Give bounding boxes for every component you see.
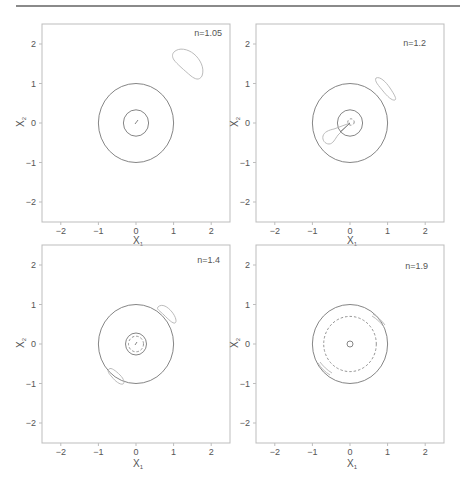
contour-center-mark (135, 342, 137, 345)
x-tick-label: −2 (270, 447, 280, 457)
x-ticks: −2 −1 0 1 2 (270, 443, 428, 457)
x-tick-label: 1 (385, 447, 390, 457)
contour-core-circle (347, 341, 353, 347)
x-tick-label: 2 (423, 226, 428, 236)
x-tick-label: −2 (270, 226, 280, 236)
y-tick-label: 2 (245, 260, 250, 270)
contour-figure: −2 −1 0 1 2 2 1 0 −1 −2 X1 X2 n=1.05 (0, 0, 462, 482)
x-tick-label: −1 (93, 447, 103, 457)
panel-n12: −2 −1 0 1 2 2 1 0 −1 −2 X1 X2 n=1.2 (229, 24, 444, 247)
x-tick-label: −1 (307, 226, 317, 236)
x-axis-label: X1 (133, 458, 144, 470)
y-tick-label: 1 (31, 300, 36, 310)
y-tick-label: −2 (240, 418, 250, 428)
y-ticks: 2 1 0 −1 −2 (240, 260, 256, 428)
x-ticks: −2 −1 0 1 2 (56, 222, 214, 236)
y-tick-label: −1 (26, 158, 36, 168)
panel-n19: −2 −1 0 1 2 2 1 0 −1 −2 X1 X2 n=1.9 (229, 245, 444, 470)
y-tick-label: 1 (245, 79, 250, 89)
y-ticks: 2 1 0 −1 −2 (26, 260, 42, 428)
y-tick-label: −2 (26, 418, 36, 428)
x-tick-label: 0 (133, 447, 138, 457)
y-axis-label: X2 (229, 116, 241, 127)
y-tick-label: 0 (31, 339, 36, 349)
n-annotation: n=1.9 (405, 261, 428, 271)
contour-dashed-ring (324, 316, 377, 371)
y-tick-label: −1 (240, 379, 250, 389)
x-ticks: −2 −1 0 1 2 (56, 443, 214, 457)
x-tick-label: 2 (209, 447, 214, 457)
y-tick-label: 1 (31, 79, 36, 89)
x-tick-label: 2 (423, 447, 428, 457)
y-axis-label: X2 (15, 337, 27, 348)
n-annotation: n=1.2 (403, 38, 426, 48)
y-tick-label: 0 (245, 339, 250, 349)
y-tick-label: 2 (31, 39, 36, 49)
panel-n105: −2 −1 0 1 2 2 1 0 −1 −2 X1 X2 n=1.05 (15, 24, 230, 247)
y-tick-label: −1 (26, 379, 36, 389)
y-tick-label: 0 (245, 118, 250, 128)
x-tick-label: 2 (209, 226, 214, 236)
x-tick-label: −2 (56, 226, 66, 236)
y-tick-label: −1 (240, 158, 250, 168)
x-tick-label: 1 (171, 447, 176, 457)
contour-lobe-lower (108, 368, 124, 384)
contour-center-mark (135, 120, 138, 124)
contour-lobe (173, 49, 203, 79)
x-tick-label: −1 (93, 226, 103, 236)
y-ticks: 2 1 0 −1 −2 (26, 39, 42, 207)
y-ticks: 2 1 0 −1 −2 (240, 39, 256, 207)
x-tick-label: −2 (56, 447, 66, 457)
y-tick-label: 2 (245, 39, 250, 49)
contour-teardrop-stem (340, 123, 350, 132)
x-tick-label: 1 (385, 226, 390, 236)
y-axis-label: X2 (229, 337, 241, 348)
x-tick-label: 0 (347, 447, 352, 457)
y-tick-label: 0 (31, 118, 36, 128)
x-tick-label: −1 (307, 447, 317, 457)
n-annotation: n=1.05 (194, 28, 222, 38)
y-tick-label: −2 (26, 197, 36, 207)
plot-frame (256, 245, 444, 443)
n-annotation: n=1.4 (197, 255, 220, 265)
y-axis-label: X2 (15, 116, 27, 127)
y-tick-label: 1 (245, 300, 250, 310)
x-ticks: −2 −1 0 1 2 (270, 222, 428, 236)
x-axis-label: X1 (347, 458, 358, 470)
panel-n14: −2 −1 0 1 2 2 1 0 −1 −2 X1 X2 n=1.4 (15, 245, 230, 470)
y-tick-label: −2 (240, 197, 250, 207)
y-tick-label: 2 (31, 260, 36, 270)
x-tick-label: 1 (171, 226, 176, 236)
